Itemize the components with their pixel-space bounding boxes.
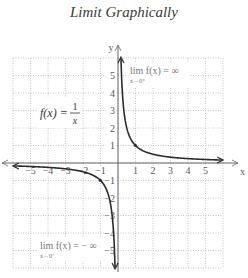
- svg-text:lim f(x) = ∞: lim f(x) = ∞: [130, 65, 179, 77]
- svg-text:5: 5: [110, 70, 115, 81]
- svg-text:f(x) =: f(x) =: [40, 106, 68, 120]
- svg-text:3: 3: [110, 105, 115, 116]
- svg-text:−5: −5: [104, 245, 115, 256]
- chart-canvas: −5−4−3−2−11234554321−1−2−3−4−5 x y f(x) …: [0, 0, 248, 278]
- svg-text:−1: −1: [104, 175, 115, 186]
- axes: [2, 45, 238, 272]
- svg-text:5: 5: [203, 165, 208, 176]
- svg-text:x→0⁻: x→0⁻: [40, 253, 55, 259]
- svg-text:4: 4: [110, 88, 115, 99]
- function-label: f(x) = 1 x: [38, 98, 82, 128]
- svg-text:1: 1: [73, 101, 78, 112]
- svg-text:lim f(x) = − ∞: lim f(x) = − ∞: [40, 240, 97, 252]
- limit-right-annotation: lim f(x) = ∞ x→0⁺: [128, 63, 190, 87]
- x-axis-label: x: [240, 166, 245, 177]
- svg-text:1: 1: [110, 140, 115, 151]
- svg-text:x: x: [72, 115, 78, 126]
- svg-text:x→0⁺: x→0⁺: [130, 78, 145, 84]
- svg-text:−3: −3: [104, 210, 115, 221]
- svg-text:−3: −3: [60, 165, 71, 176]
- svg-text:3: 3: [168, 165, 173, 176]
- svg-text:2: 2: [151, 165, 156, 176]
- svg-text:4: 4: [186, 165, 191, 176]
- svg-text:2: 2: [110, 123, 115, 134]
- svg-text:1: 1: [133, 165, 138, 176]
- limit-left-annotation: lim f(x) = − ∞ x→0⁻: [38, 237, 104, 261]
- y-axis-label: y: [109, 42, 114, 53]
